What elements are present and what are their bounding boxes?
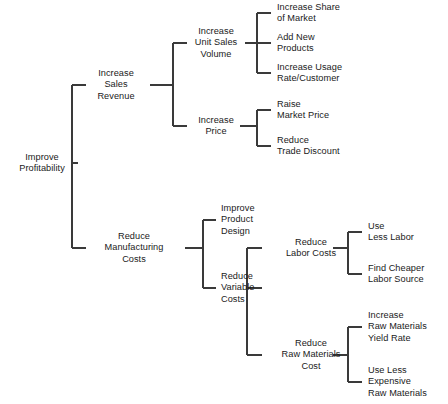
tree-node-new_products: Add New Products [277, 32, 315, 55]
tree-node-share_market: Increase Share of Market [277, 2, 340, 25]
tree-node-unit_sales: Increase Unit Sales Volume [195, 26, 237, 60]
tree-node-trade_discount: Reduce Trade Discount [277, 135, 340, 158]
tree-node-usage_rate: Increase Usage Rate/Customer [277, 62, 342, 85]
objectives-tree-diagram: Improve ProfitabilityIncrease Sales Reve… [0, 0, 448, 404]
tree-node-raw_mat_cost: Reduce Raw Materials Cost [282, 338, 341, 372]
tree-node-cheaper_labor: Find Cheaper Labor Source [368, 263, 424, 286]
tree-node-sales_rev: Increase Sales Revenue [97, 68, 134, 102]
tree-node-less_expensive: Use Less Expensive Raw Materials [368, 365, 427, 399]
tree-node-less_labor: Use Less Labor [368, 221, 414, 244]
tree-node-var_costs: Reduce Variable Costs [221, 271, 254, 305]
tree-node-raise_price: Raise Market Price [277, 99, 329, 122]
tree-node-prod_design: Improve Product Design [221, 203, 255, 237]
tree-node-root: Improve Profitability [19, 152, 65, 175]
tree-node-yield_rate: Increase Raw Materials Yield Rate [368, 310, 427, 344]
tree-node-inc_price: Increase Price [198, 115, 234, 138]
tree-node-labor_costs: Reduce Labor Costs [286, 237, 336, 260]
tree-node-mfg_costs: Reduce Manufacturing Costs [105, 231, 164, 265]
